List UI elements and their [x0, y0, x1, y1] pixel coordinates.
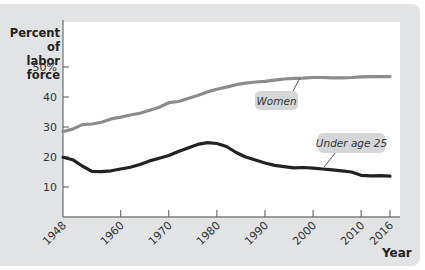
x-tick-label: 2000	[290, 219, 319, 248]
x-tick-label: 1948	[40, 219, 69, 248]
y-tick-label: 40	[43, 91, 57, 104]
y-tick-label: 20	[43, 151, 57, 164]
x-tick-label: 1990	[242, 219, 271, 248]
x-tick-label: 1980	[194, 219, 223, 248]
under25-callout-leader	[324, 152, 336, 167]
x-tick-label: 2016	[367, 219, 396, 248]
callouts: WomenUnder age 25	[255, 78, 388, 167]
line-chart: 1020304050%19481960197019801990200020102…	[0, 0, 425, 270]
women-line	[63, 77, 390, 132]
women-callout-label: Women	[256, 95, 296, 107]
x-tick-label: 2010	[338, 219, 367, 248]
x-tick-label: 1960	[98, 219, 127, 248]
under25-callout-label: Under age 25	[316, 137, 388, 149]
y-tick-label: 30	[43, 121, 57, 134]
series-lines	[63, 77, 390, 177]
x-tick-label: 1970	[146, 219, 175, 248]
y-tick-label: 50%	[33, 61, 57, 74]
y-tick-label: 10	[43, 181, 57, 194]
